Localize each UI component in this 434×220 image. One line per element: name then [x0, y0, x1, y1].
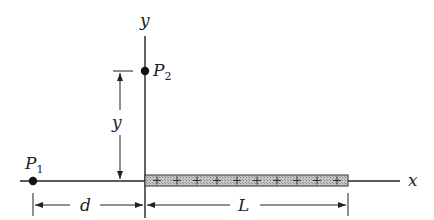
y-dimension-label: y [112, 114, 122, 131]
diagram-canvas [0, 0, 434, 220]
charged-rod [145, 175, 348, 186]
l-dimension-label: L [238, 197, 249, 214]
p1-name: P [25, 153, 36, 173]
point-p1 [29, 177, 37, 185]
p2-label: P2 [153, 62, 171, 82]
point-p2 [141, 67, 149, 75]
p1-label: P1 [25, 155, 43, 175]
x-axis-label: x [408, 172, 418, 189]
y-axis-label: y [140, 12, 150, 29]
d-dimension-label: d [80, 197, 91, 214]
p1-subscript: 1 [36, 163, 43, 176]
p2-name: P [153, 60, 164, 80]
p2-subscript: 2 [164, 70, 171, 83]
